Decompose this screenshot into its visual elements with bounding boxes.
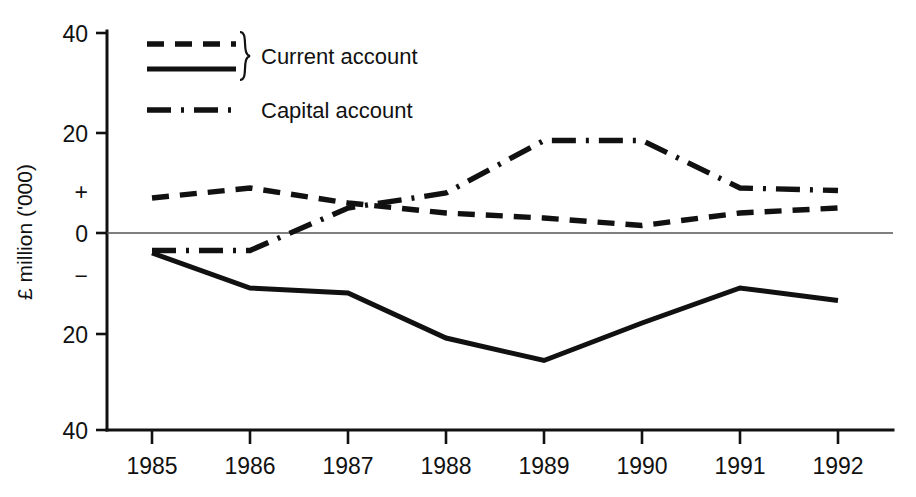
y-tick-label-40-bottom: 40 (62, 418, 88, 444)
x-tick-label-1985: 1985 (126, 453, 177, 479)
y-tick-label-20-top: 20 (62, 121, 88, 147)
x-tick-label-1991: 1991 (714, 453, 765, 479)
y-axis-title: £ million ('000) (13, 164, 36, 300)
chart-canvas: 40 20 + 0 − 20 40 £ million ('000) 1985 … (0, 0, 916, 497)
x-tick-label-1988: 1988 (420, 453, 471, 479)
x-tick-label-1986: 1986 (224, 453, 275, 479)
y-tick-label-minus-sign: − (75, 263, 88, 289)
x-tick-label-1989: 1989 (518, 453, 569, 479)
chart-background (0, 0, 916, 497)
legend-label-capital-account: Capital account (261, 98, 413, 123)
legend-label-current-account: Current account (261, 44, 418, 69)
y-tick-label-40-top: 40 (62, 21, 88, 47)
x-tick-label-1987: 1987 (322, 453, 373, 479)
x-tick-label-1990: 1990 (616, 453, 667, 479)
y-tick-label-20-bottom: 20 (62, 322, 88, 348)
x-tick-label-1992: 1992 (812, 453, 863, 479)
y-tick-label-plus-sign: + (75, 179, 88, 205)
y-tick-label-zero: 0 (75, 221, 88, 247)
chart-figure: 40 20 + 0 − 20 40 £ million ('000) 1985 … (0, 0, 916, 497)
